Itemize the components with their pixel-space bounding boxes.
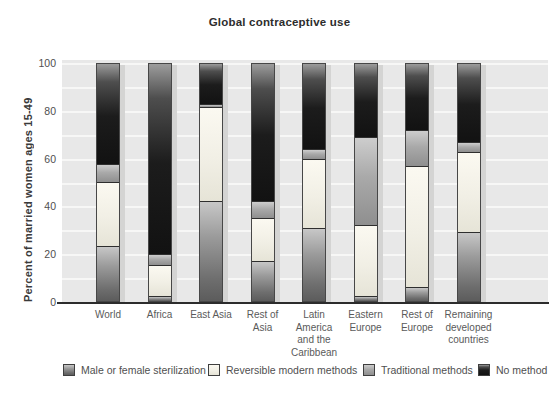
y-tick-label-20: 20 [22, 248, 56, 260]
segment-sterilization-east-asia [200, 201, 222, 301]
chart-page: Global contraceptive use Percent of marr… [0, 0, 559, 397]
y-tick-label-60: 60 [22, 153, 56, 165]
legend-item-reversible: Reversible modern methods [208, 364, 357, 376]
segment-sterilization-world [97, 246, 119, 301]
legend-swatch-reversible [208, 364, 220, 376]
segment-traditional-eastern-europe [355, 137, 377, 225]
y-tick-label-40: 40 [22, 200, 56, 212]
y-tick-label-0: 0 [22, 296, 56, 308]
legend-label-no_method: No method [496, 364, 547, 376]
segment-reversible-eastern-europe [355, 225, 377, 296]
segment-traditional-world [97, 164, 119, 183]
y-tick-label-100: 100 [22, 57, 56, 69]
segment-no_method-world [97, 64, 119, 164]
bar-eastern-europe [354, 63, 378, 302]
segment-reversible-rest-of-asia [252, 218, 274, 261]
legend-label-sterilization: Male or female sterilization [81, 364, 206, 376]
segment-no_method-latin-america-and-the-caribbean [303, 64, 325, 149]
legend-item-no_method: No method [478, 364, 547, 376]
x-axis-line [57, 302, 549, 304]
x-label-remaining-developed-countries: Remainingdevelopedcountries [431, 309, 507, 347]
segment-sterilization-remaining-developed-countries [458, 232, 480, 301]
bar-rest-of-asia [251, 63, 275, 302]
segment-reversible-latin-america-and-the-caribbean [303, 159, 325, 228]
legend-label-traditional: Traditional methods [381, 364, 473, 376]
segment-sterilization-africa [149, 296, 171, 301]
segment-sterilization-rest-of-europe [406, 287, 428, 301]
bar-rest-of-europe [405, 63, 429, 302]
bar-world [96, 63, 120, 302]
segment-sterilization-eastern-europe [355, 296, 377, 301]
segment-traditional-rest-of-europe [406, 130, 428, 166]
segment-no_method-east-asia [200, 64, 222, 104]
bar-africa [148, 63, 172, 302]
legend-swatch-no_method [478, 364, 490, 376]
y-tick-label-80: 80 [22, 105, 56, 117]
segment-reversible-africa [149, 265, 171, 296]
segment-no_method-remaining-developed-countries [458, 64, 480, 142]
segment-sterilization-latin-america-and-the-caribbean [303, 228, 325, 301]
legend-item-sterilization: Male or female sterilization [63, 364, 206, 376]
segment-reversible-remaining-developed-countries [458, 152, 480, 233]
legend-label-reversible: Reversible modern methods [226, 364, 357, 376]
segment-reversible-east-asia [200, 107, 222, 202]
segment-reversible-rest-of-europe [406, 166, 428, 287]
segment-no_method-rest-of-europe [406, 64, 428, 130]
bar-remaining-developed-countries [457, 63, 481, 302]
segment-traditional-africa [149, 254, 171, 266]
bar-latin-america-and-the-caribbean [302, 63, 326, 302]
segment-reversible-world [97, 182, 119, 246]
legend-item-traditional: Traditional methods [363, 364, 473, 376]
segment-no_method-africa [149, 64, 171, 254]
page-title: Global contraceptive use [0, 16, 559, 28]
bar-east-asia [199, 63, 223, 302]
y-axis-label: Percent of married women ages 15-49 [22, 60, 34, 302]
segment-traditional-remaining-developed-countries [458, 142, 480, 151]
legend-swatch-sterilization [63, 364, 75, 376]
segment-sterilization-rest-of-asia [252, 261, 274, 301]
segment-no_method-rest-of-asia [252, 64, 274, 201]
segment-traditional-rest-of-asia [252, 201, 274, 218]
segment-no_method-eastern-europe [355, 64, 377, 137]
segment-traditional-latin-america-and-the-caribbean [303, 149, 325, 158]
legend-swatch-traditional [363, 364, 375, 376]
